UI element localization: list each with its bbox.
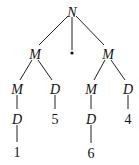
node-left-right-d: D bbox=[49, 82, 60, 97]
node-right-right-d: D bbox=[122, 82, 133, 97]
edge-root-right-m bbox=[76, 16, 104, 45]
edge-right-m-to-d bbox=[111, 60, 125, 80]
node-left-d: D bbox=[11, 112, 22, 127]
node-right-d: D bbox=[85, 112, 96, 127]
node-left-left-m: M bbox=[10, 82, 24, 97]
edge-right-m-to-m bbox=[94, 60, 105, 80]
node-root-n: N bbox=[66, 5, 77, 20]
edge-left-m-to-d bbox=[38, 60, 52, 80]
node-leaf-1: 1 bbox=[14, 145, 21, 160]
node-dot bbox=[70, 51, 73, 54]
node-leaf-4: 4 bbox=[125, 112, 132, 127]
edges bbox=[17, 16, 128, 143]
node-right-m: M bbox=[101, 47, 115, 62]
node-leaf-5: 5 bbox=[52, 112, 59, 127]
edge-root-left-m bbox=[39, 16, 68, 45]
node-right-left-m: M bbox=[84, 82, 98, 97]
node-leaf-6: 6 bbox=[88, 146, 95, 161]
node-left-m: M bbox=[28, 47, 42, 62]
tree-diagram: N M M M D M D D 5 D 4 1 6 bbox=[0, 0, 139, 165]
edge-left-m-to-m bbox=[20, 60, 32, 80]
